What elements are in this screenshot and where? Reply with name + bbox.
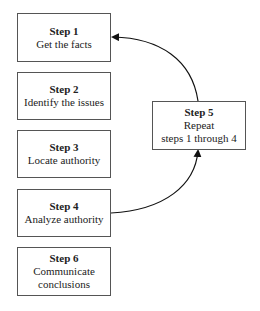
step-6-box: Step 6 Communicate conclusions xyxy=(17,247,111,296)
step-4-title: Step 4 xyxy=(49,200,78,213)
step-2-title: Step 2 xyxy=(49,83,78,96)
step-3-box: Step 3 Locate authority xyxy=(17,130,111,178)
step-2-text: Identify the issues xyxy=(24,96,104,109)
step-1-title: Step 1 xyxy=(49,25,78,38)
step-5-box: Step 5 Repeat steps 1 through 4 xyxy=(152,101,246,150)
step-6-title: Step 6 xyxy=(49,252,78,265)
step-4-box: Step 4 Analyze authority xyxy=(17,189,111,237)
step-3-title: Step 3 xyxy=(49,141,78,154)
step-5-text-line2: steps 1 through 4 xyxy=(161,132,236,145)
step-1-box: Step 1 Get the facts xyxy=(17,13,111,62)
step-2-box: Step 2 Identify the issues xyxy=(17,72,111,120)
step-6-text-line1: Communicate xyxy=(33,265,95,278)
step-6-text-line2: conclusions xyxy=(38,278,90,291)
step-5-text-line1: Repeat xyxy=(184,119,215,132)
step-1-text: Get the facts xyxy=(36,38,92,51)
step-5-title: Step 5 xyxy=(184,106,213,119)
step-3-text: Locate authority xyxy=(28,154,100,167)
step-4-text: Analyze authority xyxy=(24,213,103,226)
arrow-step5-to-step1 xyxy=(113,37,198,101)
arrow-step4-to-step5 xyxy=(111,151,198,213)
